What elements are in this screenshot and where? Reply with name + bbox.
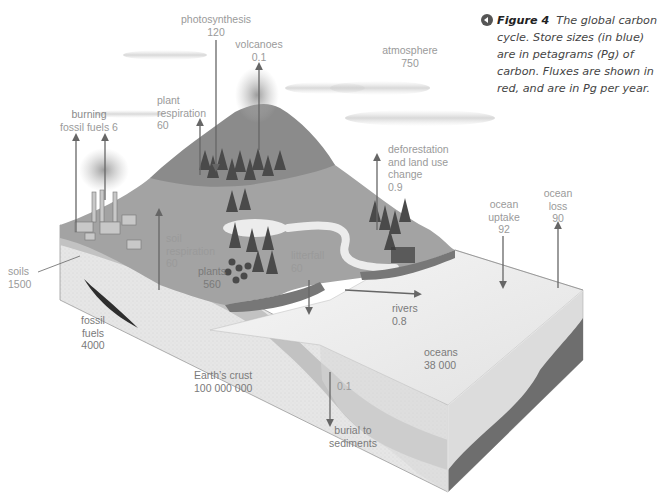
flux-label: plant [157,94,206,107]
flux-label: uptake [484,211,524,224]
flux-label: change [388,168,449,181]
store-value: 4000 [76,339,110,352]
flux-value: 90 [542,212,574,225]
flux-value: 120 [176,26,256,39]
factory-smoke [79,148,129,192]
flux-label: fossil fuels 6 [58,121,120,134]
store-value: 560 [192,278,232,291]
flux-value: 60 [166,257,215,270]
flux-value: 0.9 [388,181,449,194]
flux-label: photosynthesis [176,13,256,26]
flux-label: deforestation [388,143,449,156]
flux-value: 92 [484,223,524,236]
flux-deforestation: deforestation and land use change 0.9 [388,143,449,193]
store-label: fossil [76,314,110,327]
flux-value: 0.1 [230,51,288,64]
store-label: fuels [76,327,110,340]
flux-plant-respiration: plant respiration 60 [157,94,206,132]
flux-burial-value: 0.1 [337,380,352,393]
store-value: 750 [370,57,450,70]
flux-ocean-uptake: ocean uptake 92 [484,198,524,236]
store-value: 1500 [8,278,31,291]
flux-label: respiration [157,107,206,120]
land-use-patch [391,247,415,263]
flux-label: ocean [542,187,574,200]
store-earths-crust: Earth’s crust 100 000 000 [194,369,252,394]
flux-label: soil [166,232,215,245]
flux-label: and land use [388,156,449,169]
flux-photosynthesis: photosynthesis 120 [176,13,256,38]
store-value: 100 000 000 [194,382,252,395]
flux-label: ocean [484,198,524,211]
flux-soil-respiration: soil respiration 60 [166,232,215,270]
store-value: 38 000 [424,359,458,372]
store-atmosphere: atmosphere 750 [370,44,450,69]
flux-value: 60 [291,262,324,275]
flux-ocean-loss: ocean loss 90 [542,187,574,225]
flux-label: burning [58,108,120,121]
store-label: atmosphere [370,44,450,57]
figure-caption: Figure 4 The global carbon cycle. Store … [497,12,661,97]
flux-label: volcanoes [230,38,288,51]
store-soils: soils 1500 [8,265,31,290]
store-fossil-fuels: fossil fuels 4000 [76,314,110,352]
flux-label: rivers [392,302,418,315]
flux-rivers: rivers 0.8 [392,302,418,327]
back-arrow-circle-icon[interactable] [481,14,493,26]
store-label: soils [8,265,31,278]
flux-label: respiration [166,245,215,258]
figure-label: Figure 4 [497,14,549,27]
flux-value: 0.8 [392,315,418,328]
flux-value: 0.1 [337,380,352,393]
store-oceans: oceans 38 000 [424,346,458,371]
flux-label: burial to [326,424,380,437]
store-label: oceans [424,346,458,359]
flux-value: 60 [157,119,206,132]
flux-volcanoes: volcanoes 0.1 [230,38,288,63]
flux-burning-fossil-fuels: burning fossil fuels 6 [58,108,120,133]
flux-label: sediments [326,437,380,450]
store-label: Earth’s crust [194,369,252,382]
flux-label: litterfall [291,249,324,262]
flux-label: loss [542,200,574,213]
volcano-smoke [235,67,279,123]
flux-litterfall: litterfall 60 [291,249,324,274]
flux-burial: burial to sediments [326,424,380,449]
